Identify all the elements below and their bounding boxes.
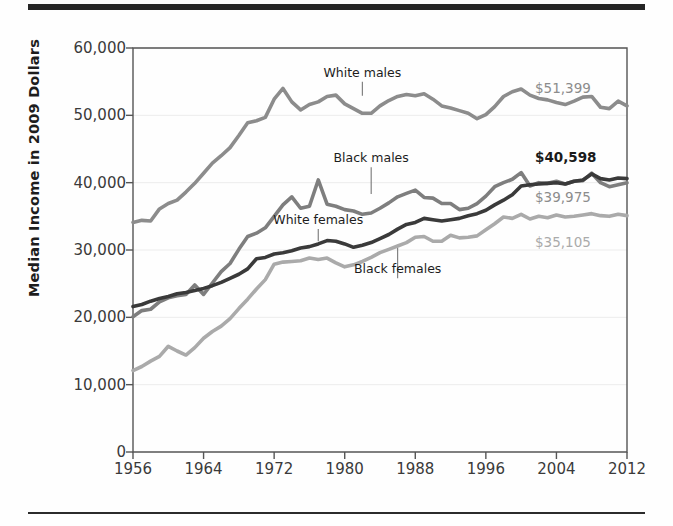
bottom-rule-divider [28, 512, 645, 514]
series-label-black-males: Black males [334, 150, 409, 165]
chart-area: Median Income in 2009 Dollars 010,00020,… [0, 12, 673, 510]
figure-container: Median Income in 2009 Dollars 010,00020,… [0, 0, 673, 526]
top-rule-divider [28, 4, 645, 10]
end-value-label-black-females: $35,105 [535, 234, 591, 250]
series-label-white-females: White females [273, 212, 363, 227]
end-value-label-black-males: $39,975 [535, 189, 591, 205]
series-label-white-males: White males [323, 65, 401, 80]
end-value-label-white-males: $51,399 [535, 80, 591, 96]
series-label-black-females: Black females [354, 261, 441, 276]
end-value-label-white-females: $40,598 [535, 149, 597, 165]
